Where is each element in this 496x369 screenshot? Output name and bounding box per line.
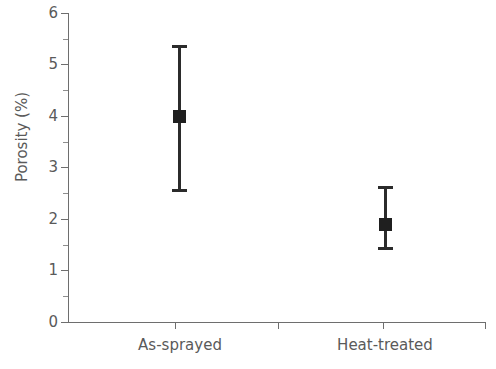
errorbar-cap-upper-as-sprayed xyxy=(172,45,187,48)
errorbar-cap-lower-as-sprayed xyxy=(172,189,187,192)
x-tick-label-as-sprayed: As-sprayed xyxy=(110,336,250,354)
y-tick-5 xyxy=(61,64,68,65)
x-tick-as-sprayed xyxy=(175,323,176,329)
y-tick-4 xyxy=(61,116,68,117)
x-tick-end xyxy=(485,323,486,329)
data-point-heat-treated xyxy=(379,218,392,231)
y-minor-tick-1-5 xyxy=(63,245,68,246)
y-axis-line xyxy=(68,13,69,323)
y-axis-title: Porosity (%) xyxy=(13,72,31,202)
y-tick-label-4: 4 xyxy=(36,107,58,125)
y-minor-tick-2-5 xyxy=(63,193,68,194)
x-tick-mid xyxy=(278,323,279,329)
y-tick-label-0: 0 xyxy=(36,313,58,331)
y-tick-label-6: 6 xyxy=(36,4,58,22)
y-minor-tick-0-5 xyxy=(63,296,68,297)
y-minor-tick-3-5 xyxy=(63,142,68,143)
errorbar-cap-upper-heat-treated xyxy=(378,186,393,189)
y-tick-label-3: 3 xyxy=(36,158,58,176)
x-tick-label-heat-treated: Heat-treated xyxy=(315,336,455,354)
y-tick-6 xyxy=(61,13,68,14)
y-minor-tick-5-5 xyxy=(63,39,68,40)
errorbar-cap-lower-heat-treated xyxy=(378,247,393,250)
x-tick-heat-treated xyxy=(383,323,384,329)
y-tick-3 xyxy=(61,167,68,168)
data-point-as-sprayed xyxy=(173,110,186,123)
y-tick-label-1: 1 xyxy=(36,261,58,279)
y-tick-label-5: 5 xyxy=(36,55,58,73)
porosity-error-bar-chart: Porosity (%) 6 5 4 3 2 1 0 As-sprayed He… xyxy=(0,0,496,369)
y-tick-0 xyxy=(61,322,68,323)
y-tick-1 xyxy=(61,270,68,271)
x-axis-line xyxy=(68,322,486,323)
y-tick-2 xyxy=(61,219,68,220)
y-tick-label-2: 2 xyxy=(36,210,58,228)
y-minor-tick-4-5 xyxy=(63,90,68,91)
